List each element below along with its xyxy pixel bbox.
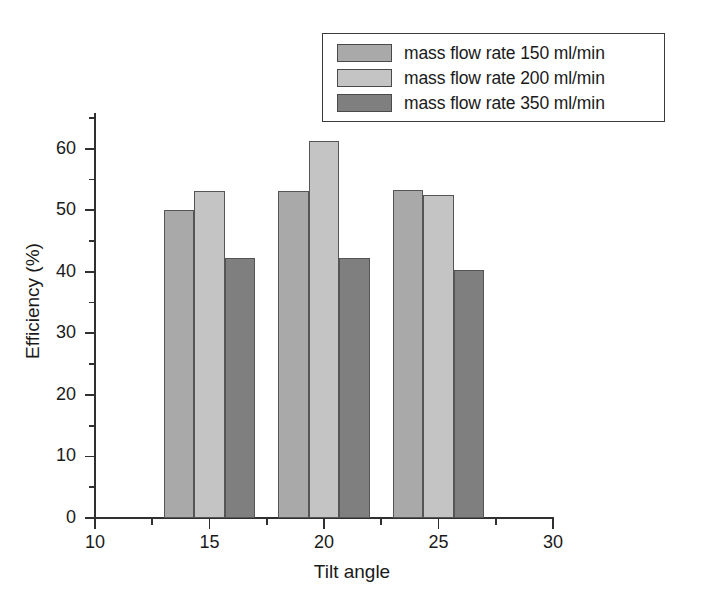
legend-label-150: mass flow rate 150 ml/min: [404, 44, 605, 63]
bar-chart-figure: mass flow rate 150 ml/min mass flow rate…: [0, 0, 704, 604]
legend-swatch-350: [337, 94, 392, 112]
x-minor-tick: [266, 519, 268, 525]
y-tick-10: [85, 456, 95, 458]
bar-20-series1: [278, 191, 309, 518]
x-minor-tick: [380, 519, 382, 525]
y-tick-60: [85, 148, 95, 150]
x-minor-tick: [151, 519, 153, 525]
chart-legend: mass flow rate 150 ml/min mass flow rate…: [322, 33, 665, 122]
y-tick-40: [85, 271, 95, 273]
x-tick-label-30: 30: [533, 532, 573, 553]
bar-20-series2: [309, 141, 340, 518]
x-tick-label-10: 10: [75, 532, 115, 553]
legend-swatch-150: [337, 44, 392, 62]
legend-entry-350: mass flow rate 350 ml/min: [337, 91, 605, 115]
y-tick-50: [85, 209, 95, 211]
y-tick-30: [85, 332, 95, 334]
x-tick-15: [209, 519, 211, 529]
x-tick-label-20: 20: [304, 532, 344, 553]
y-minor-tick: [89, 179, 95, 181]
y-minor-tick: [89, 240, 95, 242]
y-minor-tick: [89, 486, 95, 488]
legend-entry-150: mass flow rate 150 ml/min: [337, 41, 605, 65]
x-axis-title: Tilt angle: [0, 561, 704, 583]
y-axis-line: [94, 113, 96, 519]
y-minor-tick: [89, 117, 95, 119]
y-minor-tick: [89, 302, 95, 304]
y-minor-tick: [89, 363, 95, 365]
x-tick-30: [552, 519, 554, 529]
x-tick-20: [323, 519, 325, 529]
y-tick-label-0: 0: [36, 507, 76, 528]
y-tick-20: [85, 394, 95, 396]
y-tick-label-10: 10: [36, 445, 76, 466]
x-tick-25: [438, 519, 440, 529]
bar-25-series3: [454, 270, 485, 518]
x-minor-tick: [495, 519, 497, 525]
bar-15-series3: [225, 258, 256, 518]
bar-15-series1: [164, 210, 195, 518]
legend-label-350: mass flow rate 350 ml/min: [404, 94, 605, 113]
x-tick-label-25: 25: [419, 532, 459, 553]
legend-entry-200: mass flow rate 200 ml/min: [337, 66, 605, 90]
legend-swatch-200: [337, 69, 392, 87]
x-tick-10: [94, 519, 96, 529]
bar-20-series3: [339, 258, 370, 518]
bar-25-series1: [393, 190, 424, 518]
y-tick-label-60: 60: [36, 138, 76, 159]
y-minor-tick: [89, 425, 95, 427]
bar-25-series2: [423, 195, 454, 518]
y-axis-title: Efficiency (%): [22, 211, 44, 391]
bar-15-series2: [194, 191, 225, 518]
x-tick-label-15: 15: [190, 532, 230, 553]
legend-label-200: mass flow rate 200 ml/min: [404, 69, 605, 88]
